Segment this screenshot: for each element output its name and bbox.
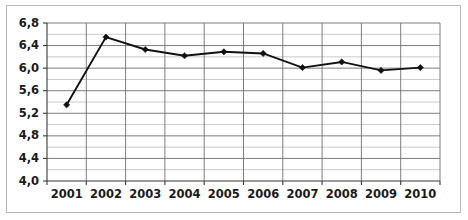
x-axis-tick-label: 2004	[169, 187, 201, 201]
x-axis-tick-label: 2001	[51, 187, 83, 201]
x-axis-tick-label: 2010	[404, 187, 436, 201]
x-axis-tick-label: 2008	[326, 187, 358, 201]
x-axis-tick-label: 2003	[129, 187, 161, 201]
data-point-marker	[260, 50, 266, 56]
x-axis-tick-label: 2007	[286, 187, 318, 201]
y-axis-tick-label: 4,8	[19, 128, 39, 142]
data-point-marker	[142, 46, 148, 52]
y-axis-tick-label: 6,8	[19, 16, 39, 30]
y-axis-tick-label: 4,4	[19, 151, 39, 165]
y-axis-tick-label: 6,4	[19, 38, 39, 52]
y-axis-tick-label: 6,0	[19, 61, 39, 75]
line-chart: 4,04,44,85,25,66,06,46,8 200120022003200…	[7, 6, 462, 214]
chart-frame: 4,04,44,85,25,66,06,46,8 200120022003200…	[6, 5, 461, 213]
x-axis-tick-label: 2005	[208, 187, 240, 201]
data-point-marker	[299, 64, 305, 70]
x-axis-tick-label: 2002	[90, 187, 122, 201]
data-point-marker	[181, 53, 187, 59]
data-point-marker	[339, 59, 345, 65]
x-axis-tick-labels: 2001200220032004200520062007200820092010	[51, 187, 437, 201]
axis-tick-marks	[43, 23, 440, 185]
x-axis-tick-label: 2009	[365, 187, 397, 201]
y-axis-tick-label: 4,0	[19, 174, 39, 188]
y-axis-tick-labels: 4,04,44,85,25,66,06,46,8	[19, 16, 39, 188]
x-axis-tick-label: 2006	[247, 187, 279, 201]
y-axis-tick-label: 5,2	[19, 106, 39, 120]
data-point-marker	[221, 49, 227, 55]
y-axis-tick-label: 5,6	[19, 83, 39, 97]
data-point-marker	[417, 64, 423, 70]
